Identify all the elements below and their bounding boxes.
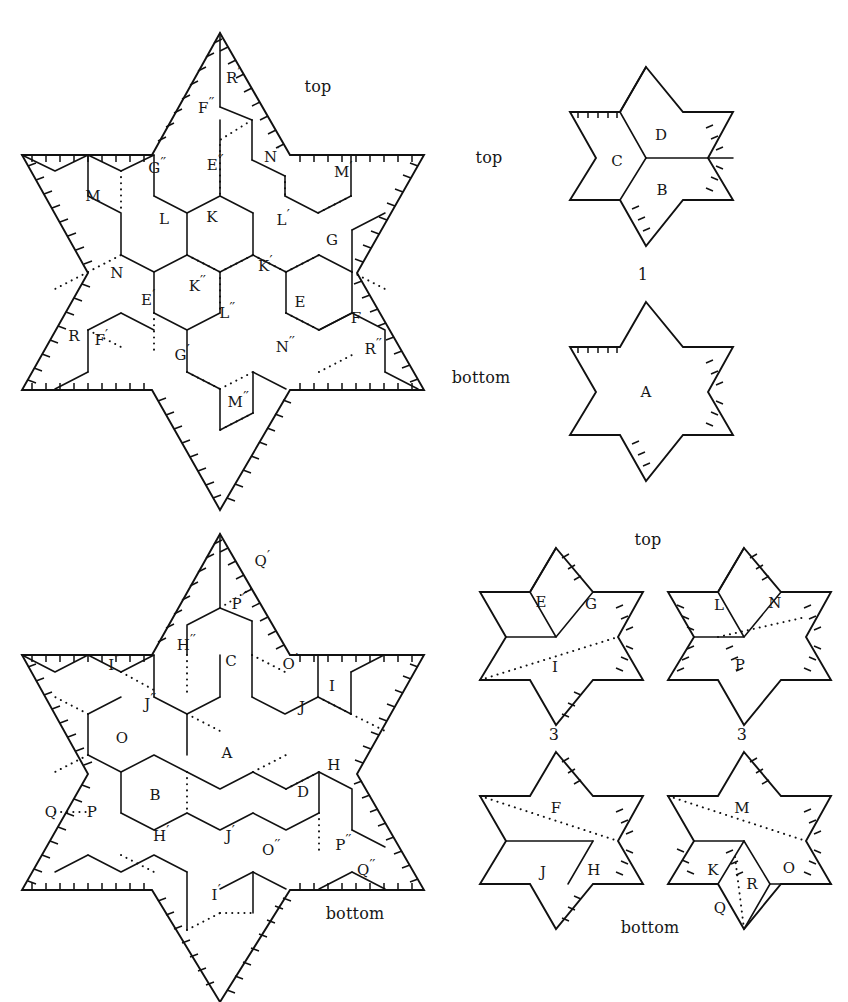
- large-hexagram-top-region-label-0: R′: [226, 66, 240, 86]
- large-hexagram-top-region-label-17: R: [68, 329, 80, 344]
- ann-bottom-right-group-top: top: [635, 532, 662, 548]
- small-hexagram-3-right-folds: [718, 617, 806, 637]
- large-hexagram-bottom-hatch: [28, 540, 418, 993]
- small-hexagram-1-bottom-hatch: [578, 347, 723, 466]
- large-hexagram-bottom-region-label-1: P′: [232, 592, 245, 612]
- small-hexagram-bottom-left-region-label-1: J: [540, 865, 546, 880]
- large-hexagram-bottom-region-label-21: I′: [212, 883, 221, 903]
- ann-small-star-3-number-right: 3: [737, 727, 747, 743]
- large-hexagram-top-region-label-4: E′′: [207, 153, 223, 173]
- large-hexagram-top-region-label-11: N: [110, 266, 123, 281]
- large-hexagram-bottom-region-label-12: B: [149, 788, 160, 803]
- large-hexagram-bottom-region-label-10: A: [221, 746, 232, 761]
- small-hexagram-bottom-right-region-label-0: M: [734, 801, 750, 816]
- large-hexagram-bottom-region-label-4: C: [225, 654, 237, 669]
- small-hexagram-bottom-right-region-label-2: R: [746, 877, 758, 892]
- small-hexagram-3-left-outline: [480, 548, 643, 725]
- large-hexagram-bottom-region-label-6: I: [329, 679, 335, 694]
- ann-top-right-star-top: top: [476, 150, 503, 166]
- small-hexagram-3-left-hatch: [562, 554, 633, 717]
- ann-top-left-star: top: [305, 79, 332, 95]
- large-hexagram-bottom-region-label-0: Q′: [254, 549, 269, 569]
- large-hexagram-top-region-label-16: F: [351, 311, 362, 326]
- small-hexagram-bottom-left-hatch: [562, 758, 633, 921]
- large-hexagram-top-region-label-2: N′: [264, 145, 280, 165]
- large-hexagram-bottom-region-label-15: P: [87, 805, 97, 820]
- small-hexagram-3-left-top-region-label-0: E: [535, 595, 546, 610]
- large-hexagram-bottom-region-label-17: J′: [226, 824, 235, 844]
- large-hexagram-top-region-label-8: K: [206, 210, 217, 225]
- small-hexagram-bottom-left-partitions: [506, 841, 593, 884]
- large-hexagram-top-region-label-15: E: [294, 295, 305, 310]
- large-hexagram-bottom-region-label-20: Q′′: [357, 858, 375, 878]
- star-dissection-figure: toptop1bottombottomtop33bottomR′F′′N′G′′…: [0, 0, 848, 1002]
- figure-linework: [0, 0, 848, 1002]
- small-hexagram-3-right-top-region-label-1: N: [768, 596, 781, 611]
- large-hexagram-top-region-label-21: R′′: [365, 337, 382, 357]
- large-hexagram-top-region-label-7: L: [159, 212, 169, 227]
- large-hexagram-top-region-label-20: N′′: [276, 335, 295, 355]
- small-hexagram-1-top-outline: [570, 67, 733, 246]
- ann-top-right-star-number: 1: [638, 267, 648, 283]
- small-hexagram-bottom-right-region-label-1: K: [707, 863, 718, 878]
- small-hexagram-3-right-top-region-label-2: P: [735, 658, 745, 673]
- ann-top-right-star-bottom: bottom: [452, 370, 511, 386]
- ann-bottom-right-group-bottom: bottom: [621, 920, 680, 936]
- ann-small-star-3-number-left: 3: [549, 727, 559, 743]
- small-hexagram-3-left-folds: [480, 637, 618, 680]
- small-hexagram-bottom-right-outline: [668, 752, 831, 929]
- large-hexagram-bottom-region-label-18: O′′: [262, 838, 280, 858]
- small-hexagram-3-left-top-region-label-2: I: [552, 660, 558, 675]
- small-hexagram-bottom-left-region-label-2: H: [587, 863, 600, 878]
- large-hexagram-top-region-label-6: M: [85, 189, 101, 204]
- ann-bottom-left-star: bottom: [326, 906, 385, 922]
- small-hexagram-3-right-outline: [668, 548, 831, 725]
- large-hexagram-top-region-label-22: G′: [175, 343, 190, 363]
- large-hexagram-top-outline: [22, 33, 424, 510]
- large-hexagram-top-partitions: [22, 33, 418, 430]
- large-hexagram-bottom-region-label-13: D: [297, 785, 309, 800]
- large-hexagram-top-region-label-19: L′′: [219, 301, 234, 321]
- small-hexagram-bottom-right-region-label-4: Q: [714, 901, 727, 916]
- large-hexagram-bottom-region-label-14: Q: [45, 805, 58, 820]
- large-hexagram-bottom-region-label-16: H′: [153, 824, 169, 844]
- large-hexagram-top-region-label-5: M′: [334, 160, 352, 180]
- large-hexagram-bottom-region-label-19: P′′: [335, 833, 351, 853]
- small-hexagram-1-top-region-label-2: B: [656, 183, 667, 198]
- large-hexagram-top-region-label-12: K′: [258, 254, 272, 274]
- small-hexagram-1-top-partitions: [620, 67, 733, 200]
- large-hexagram-top-region-label-18: F′: [94, 328, 107, 348]
- small-hexagram-bottom-right-region-label-3: O: [783, 861, 796, 876]
- large-hexagram-top-region-label-1: F′′: [198, 96, 214, 116]
- small-hexagram-3-right-top-region-label-0: L: [714, 598, 724, 613]
- small-hexagram-3-left-top-region-label-1: G: [585, 597, 597, 612]
- small-hexagram-bottom-left-region-label-0: F: [551, 801, 562, 816]
- large-hexagram-top-region-label-14: K′′: [189, 274, 206, 294]
- large-hexagram-bottom-region-label-3: I′′: [108, 653, 119, 673]
- small-hexagram-3-right-hatch: [677, 554, 821, 671]
- large-hexagram-top-region-label-23: M′′: [228, 390, 249, 410]
- small-hexagram-bottom-right-hatch: [677, 758, 821, 875]
- large-hexagram-top-region-label-10: G: [326, 233, 338, 248]
- large-hexagram-top-region-label-13: E′: [141, 288, 155, 308]
- large-hexagram-bottom-region-label-11: H: [327, 758, 340, 773]
- large-hexagram-bottom-region-label-8: J: [299, 700, 305, 715]
- small-hexagram-bottom-left-folds: [480, 796, 618, 841]
- large-hexagram-top-region-label-3: G′′: [148, 156, 165, 176]
- large-hexagram-top-region-label-9: L′: [277, 208, 290, 228]
- large-hexagram-bottom-partitions: [22, 534, 385, 930]
- large-hexagram-bottom-region-label-7: J′′: [144, 692, 155, 712]
- small-hexagram-1-top-region-label-0: D: [655, 128, 667, 143]
- small-hexagram-1-top-hatch: [578, 112, 723, 231]
- small-hexagram-1-bottom-region-label-0: A: [640, 385, 651, 400]
- small-hexagram-1-top-region-label-1: C: [611, 154, 623, 169]
- large-hexagram-bottom-region-label-9: O: [116, 731, 129, 746]
- large-hexagram-bottom-region-label-5: O′: [282, 652, 297, 672]
- large-hexagram-bottom-region-label-2: H′′: [177, 633, 196, 653]
- large-hexagram-bottom-outline: [22, 534, 424, 1002]
